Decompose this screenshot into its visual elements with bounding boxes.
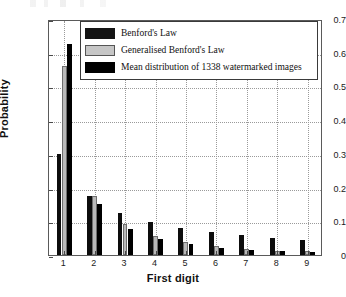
- x-tick-mark: [64, 251, 65, 255]
- bar: [67, 44, 72, 255]
- x-tick-mark: [156, 251, 157, 255]
- x-tick-label: 7: [243, 258, 248, 268]
- scan-artifact: [30, 0, 150, 7]
- x-tick-mark: [216, 251, 217, 255]
- legend-item[interactable]: Benford's Law: [85, 25, 313, 42]
- bar: [280, 251, 285, 255]
- x-tick-mark: [186, 251, 187, 255]
- legend-label: Generalised Benford's Law: [121, 45, 225, 56]
- x-axis-title: First digit: [0, 272, 346, 284]
- x-tick-label: 5: [182, 258, 187, 268]
- legend: Benford's Law Generalised Benford's Law …: [80, 21, 318, 80]
- legend-label: Mean distribution of 1338 watermarked im…: [121, 62, 302, 73]
- bar: [158, 239, 163, 255]
- y-tick-mark: [49, 257, 53, 258]
- x-tick-mark: [308, 251, 309, 255]
- bar: [310, 252, 315, 255]
- y-tick-mark: [49, 190, 53, 191]
- x-tick-label: 4: [152, 258, 157, 268]
- x-tick-mark: [95, 251, 96, 255]
- x-tick-label: 2: [91, 258, 96, 268]
- bar-group: [57, 21, 72, 255]
- x-tick-mark: [277, 251, 278, 255]
- y-tick-mark: [49, 223, 53, 224]
- y-tick-mark: [49, 88, 53, 89]
- x-tick-label: 6: [213, 258, 218, 268]
- legend-label: Benford's Law: [121, 28, 177, 39]
- y-tick-mark: [49, 122, 53, 123]
- legend-item[interactable]: Mean distribution of 1338 watermarked im…: [85, 59, 313, 76]
- legend-swatch-icon: [85, 28, 115, 39]
- y-tick-mark: [49, 21, 53, 22]
- bar: [249, 250, 254, 255]
- legend-swatch-icon: [85, 62, 115, 73]
- y-tick-mark: [49, 55, 53, 56]
- legend-item[interactable]: Generalised Benford's Law: [85, 42, 313, 59]
- bar: [189, 244, 194, 255]
- x-tick-label: 3: [122, 258, 127, 268]
- bar: [219, 248, 224, 255]
- y-tick-mark: [49, 156, 53, 157]
- bar: [128, 229, 133, 255]
- x-tick-label: 9: [304, 258, 309, 268]
- x-tick-mark: [247, 251, 248, 255]
- y-axis-title: Probability: [0, 79, 10, 138]
- chart-page: Probability First digit 00.10.20.30.40.5…: [0, 0, 346, 297]
- legend-swatch-icon: [85, 45, 115, 56]
- x-tick-mark: [125, 251, 126, 255]
- x-tick-label: 8: [274, 258, 279, 268]
- x-tick-label: 1: [61, 258, 66, 268]
- bar: [97, 204, 102, 255]
